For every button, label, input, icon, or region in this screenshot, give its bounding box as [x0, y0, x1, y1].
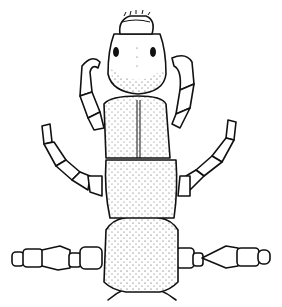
midleg-left	[42, 124, 102, 196]
hindleg-right	[176, 246, 270, 268]
insect-drawing	[0, 0, 282, 307]
eye-right	[150, 47, 156, 57]
foreleg-right	[172, 56, 194, 128]
labrum	[120, 16, 153, 34]
insect-illustration	[0, 0, 282, 307]
foreleg-left	[80, 59, 104, 130]
midleg-right	[178, 120, 236, 196]
eye-left	[113, 47, 119, 57]
hindleg-left	[12, 246, 102, 270]
labrum-hairs	[124, 10, 150, 16]
